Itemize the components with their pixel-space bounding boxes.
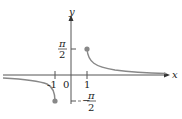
x-axis-label: x bbox=[172, 69, 178, 80]
left-endpoint-dot bbox=[52, 98, 57, 103]
right-endpoint-dot bbox=[84, 46, 89, 51]
pi-half-numerator: π bbox=[58, 38, 66, 49]
arccsc-graph: y x -1 0 1 π 2 − π 2 bbox=[0, 0, 182, 119]
pi-half-denominator: 2 bbox=[59, 49, 65, 60]
neg-pi-half-numerator: π bbox=[87, 90, 95, 101]
y-axis-label: y bbox=[68, 6, 75, 17]
right-branch-curve bbox=[87, 49, 166, 74]
tick-label-1: 1 bbox=[84, 79, 90, 90]
tick-label-neg1: -1 bbox=[47, 79, 57, 90]
neg-pi-half-denominator: 2 bbox=[88, 102, 94, 113]
tick-label-origin: 0 bbox=[63, 79, 69, 90]
